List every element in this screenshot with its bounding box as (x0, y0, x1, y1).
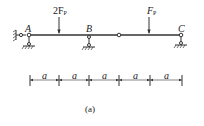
hinge (117, 33, 121, 37)
dimension-a-5: a (164, 71, 169, 81)
support-b (82, 36, 95, 51)
load-label-fp: FP (147, 6, 156, 18)
dimension-a-3: a (102, 71, 107, 81)
label-b: B (86, 24, 92, 34)
label-a: A (25, 24, 31, 34)
caption: (a) (85, 104, 95, 114)
beam-diagram: A B C 2FP FP a a a a a (a) (0, 0, 204, 126)
load-label-2fp: 2FP (53, 6, 67, 18)
label-c: C (178, 24, 185, 34)
dimension-a-2: a (72, 71, 77, 81)
beam-drawing (0, 0, 204, 126)
dimension-a-4: a (133, 71, 138, 81)
dimension-a-1: a (42, 71, 47, 81)
